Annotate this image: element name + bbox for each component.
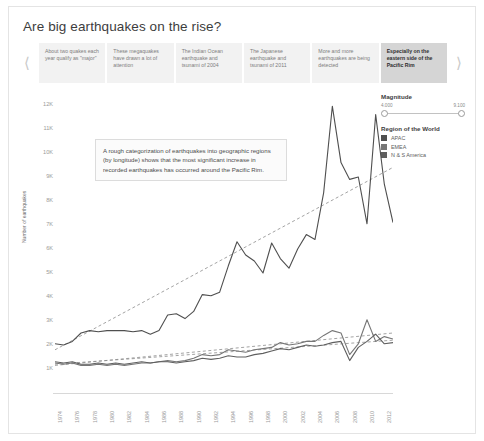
x-tick-label: 1992: [213, 411, 219, 423]
series-svg: [55, 93, 393, 393]
story-tab-0[interactable]: About two quakes each year qualify as "m…: [39, 43, 107, 83]
y-tick-label: 9K: [23, 173, 53, 179]
x-tick-label: 1980: [109, 411, 115, 423]
series-line-emea: [55, 320, 393, 366]
x-axis-line: [53, 393, 393, 394]
y-tick-label: 5K: [23, 269, 53, 275]
page-title: Are big earthquakes on the rise?: [23, 19, 221, 34]
x-tick-label: 1984: [144, 411, 150, 423]
story-tab-4[interactable]: More and more earthquakes are being dete…: [312, 43, 380, 83]
x-tick-label: 2008: [352, 411, 358, 423]
x-tick-label: 1990: [196, 411, 202, 423]
x-tick-label: 2006: [334, 411, 340, 423]
x-tick-label: 2012: [386, 411, 392, 423]
x-tick-label: 1978: [92, 411, 98, 423]
chevron-left-icon[interactable]: ⟨: [19, 51, 35, 75]
x-tick-label: 2010: [369, 411, 375, 423]
x-tick-label: 1974: [57, 411, 63, 423]
y-tick-label: 12K: [23, 101, 53, 107]
x-tick-label: 1986: [161, 411, 167, 423]
y-tick-label: 1K: [23, 365, 53, 371]
story-tab-3[interactable]: The Japanese earthquake and tsunami of 2…: [244, 43, 312, 83]
y-axis: 1K2K3K4K5K6K7K8K9K10K11K12K: [19, 93, 53, 393]
y-tick-label: 3K: [23, 317, 53, 323]
trendline: [55, 167, 393, 349]
y-tick-label: 10K: [23, 149, 53, 155]
story-tab-1[interactable]: These megaquakes have drawn a lot of att…: [107, 43, 175, 83]
x-tick-label: 1998: [265, 411, 271, 423]
magnitude-max-value: 9.100: [454, 103, 466, 108]
y-tick-label: 2K: [23, 341, 53, 347]
y-tick-label: 8K: [23, 197, 53, 203]
x-tick-label: 1988: [178, 411, 184, 423]
story-tab-2[interactable]: The Indian Ocean earthquake and tsunami …: [176, 43, 244, 83]
annotation-callout: A rough categorization of earthquakes in…: [95, 139, 287, 181]
plot-area: [55, 93, 393, 393]
x-tick-label: 2002: [300, 411, 306, 423]
visualization-container: Are big earthquakes on the rise? ⟨ ⟩ Abo…: [8, 6, 476, 434]
x-tick-label: 1994: [230, 411, 236, 423]
y-tick-label: 7K: [23, 221, 53, 227]
series-line-n-s-america: [55, 334, 393, 364]
x-axis: 1974197619781980198219841986198819901992…: [55, 395, 393, 429]
story-tab-5[interactable]: Especially on the eastern side of the Pa…: [381, 43, 447, 83]
story-carousel: ⟨ ⟩ About two quakes each year qualify a…: [19, 43, 467, 83]
y-tick-label: 4K: [23, 293, 53, 299]
story-tab-list: About two quakes each year qualify as "m…: [39, 43, 447, 83]
slider-handle-max[interactable]: [458, 110, 465, 117]
x-tick-label: 1982: [126, 411, 132, 423]
y-tick-label: 6K: [23, 245, 53, 251]
x-tick-label: 1976: [74, 411, 80, 423]
x-tick-label: 2004: [317, 411, 323, 423]
x-tick-label: 1996: [248, 411, 254, 423]
chevron-right-icon[interactable]: ⟩: [451, 51, 467, 75]
y-tick-label: 11K: [23, 125, 53, 131]
x-tick-label: 2000: [282, 411, 288, 423]
